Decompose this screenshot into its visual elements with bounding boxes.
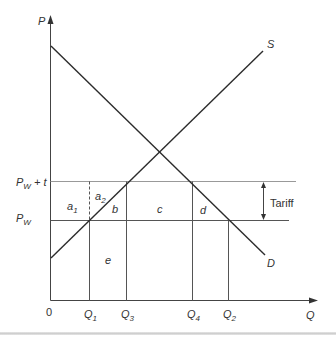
tariff-arrow-down-icon [261,214,266,220]
x-axis-arrow-icon [309,298,318,304]
tariff-diagram: P Q 0 S D PW + t PW Q1 Q3 Q4 Q2 a1 a2 b … [0,0,336,339]
demand-curve [51,46,265,255]
y-axis-label: P [38,15,46,27]
tariff-label: Tariff [270,197,295,209]
area-c-label: c [157,203,163,215]
area-d-label: d [200,204,207,216]
area-e-label: e [105,254,111,266]
area-a1-label: a1 [67,200,78,215]
x-axis-label: Q [306,309,315,321]
pw-label: PW [16,212,32,227]
area-a2-label: a2 [95,190,106,205]
pw-plus-t-label: PW + t [16,176,47,191]
supply-curve [51,51,263,258]
bottom-divider [0,332,336,335]
origin-label: 0 [46,306,52,318]
demand-label: D [267,257,275,269]
supply-label: S [267,38,275,50]
q4-label: Q4 [187,308,201,323]
q2-label: Q2 [223,308,237,323]
y-axis-arrow-icon [48,15,54,24]
tariff-arrow-up-icon [261,182,266,188]
q3-label: Q3 [121,308,135,323]
q1-label: Q1 [84,308,97,323]
area-b-label: b [112,203,118,215]
